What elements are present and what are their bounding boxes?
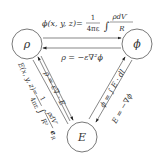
relation-diagram: ρ ϕ E ϕ(x, y, z)= 1 4πε ∫ ρdV′ R ρ = −ε∇… [0, 0, 162, 159]
svg-text:ρdV′: ρdV′ [111, 13, 128, 21]
node-phi: ϕ [122, 29, 152, 59]
label-phi-integral: ϕ(x, y, z)= 1 4πε ∫ ρdV′ R [42, 13, 133, 33]
node-E-label: E [77, 131, 86, 144]
node-E: E [67, 122, 97, 152]
label-rho-divergence: ρ = ε∇ · E [42, 69, 68, 108]
svg-text:ϕ(x, y, z)=: ϕ(x, y, z)= [42, 19, 83, 28]
node-rho-label: ρ [23, 38, 31, 51]
node-phi-label: ϕ [133, 38, 141, 51]
node-rho: ρ [12, 29, 42, 59]
svg-text:E = −∇ϕ: E = −∇ϕ [109, 92, 134, 126]
svg-text:4πε: 4πε [87, 25, 100, 33]
svg-text:1: 1 [91, 14, 95, 22]
label-E-gradient: E = −∇ϕ [109, 92, 134, 126]
label-rho-laplacian: ρ = −ε∇²ϕ [60, 53, 103, 62]
svg-text:∫: ∫ [104, 20, 110, 33]
svg-text:R: R [118, 25, 125, 33]
svg-text:ρ = ε∇ · E: ρ = ε∇ · E [42, 69, 68, 108]
